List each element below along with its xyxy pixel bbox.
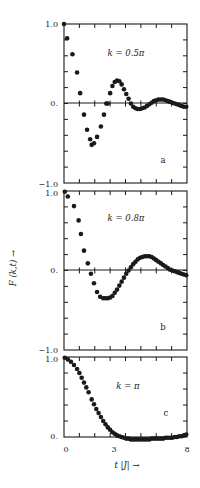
data-point: [82, 112, 87, 117]
data-point: [122, 87, 127, 92]
data-point: [79, 232, 84, 237]
data-point: [94, 407, 99, 412]
chart-canvas: 1.0 0. k = 0.5π a −1.0 1.0 0. k = 0.8π b…: [0, 0, 200, 488]
data-point: [72, 204, 77, 209]
x-tick-label-8: 8: [184, 445, 189, 454]
panel-b-letter: b: [160, 322, 166, 332]
panel-c-ticks: [64, 357, 187, 437]
data-point: [110, 84, 115, 89]
panel-a-data-points: [62, 22, 189, 147]
panel-c-data-points: [62, 356, 188, 442]
data-point: [95, 135, 100, 140]
data-point: [77, 371, 82, 376]
figure: 1.0 0. k = 0.5π a −1.0 1.0 0. k = 0.8π b…: [0, 0, 200, 488]
data-point: [78, 91, 83, 96]
data-point: [108, 91, 113, 96]
data-point: [184, 104, 189, 109]
data-point: [115, 287, 120, 292]
data-point: [65, 36, 70, 41]
data-point: [89, 397, 94, 402]
panel-a-letter: a: [160, 155, 165, 165]
data-point: [126, 96, 131, 101]
data-point: [75, 367, 80, 372]
panel-a-ytick-zero: 0.: [50, 99, 58, 108]
panel-b-k-label: k = 0.8π: [108, 213, 145, 223]
data-point: [92, 141, 97, 146]
panel-c-frame: [64, 357, 187, 437]
panel-a-k-label: k = 0.5π: [108, 48, 145, 58]
data-point: [96, 411, 101, 416]
data-point: [117, 283, 122, 288]
data-point: [62, 189, 67, 194]
panel-b-ytick-zero: 0.: [50, 266, 58, 275]
data-point: [122, 275, 127, 280]
data-point: [66, 194, 71, 199]
data-point: [124, 92, 129, 97]
panel-b: −1.0 1.0 0. k = 0.8π b: [39, 180, 189, 350]
data-point: [82, 380, 87, 385]
x-tick-label-3: 3: [111, 445, 116, 454]
panel-a: 1.0 0. k = 0.5π a: [45, 20, 188, 183]
panel-b-data-points: [62, 189, 188, 300]
data-point: [76, 218, 81, 223]
data-point: [99, 124, 104, 129]
data-point: [99, 415, 104, 420]
data-point: [92, 402, 97, 407]
panel-b-ytick-top: 1.0: [45, 189, 58, 198]
data-point: [72, 363, 77, 368]
panel-a-ytick-bottom: −1.0: [39, 180, 58, 189]
data-point: [88, 137, 93, 142]
data-point: [184, 432, 189, 437]
data-point: [85, 127, 90, 132]
data-point: [184, 273, 189, 278]
data-point: [62, 22, 67, 27]
data-point: [75, 70, 80, 75]
panel-c-k-label: k = π: [116, 381, 140, 391]
y-axis-label: F (k,t) →: [8, 250, 18, 287]
x-tick-label-0: 0: [63, 445, 68, 454]
data-point: [82, 248, 87, 253]
data-point: [119, 279, 124, 284]
data-point: [84, 385, 89, 390]
data-point: [102, 112, 107, 117]
data-point: [89, 271, 94, 276]
panel-b-ytick-bottom: −1.0: [39, 346, 58, 355]
panel-a-ytick-top: 1.0: [45, 20, 58, 29]
data-point: [106, 101, 111, 106]
panel-c-letter: c: [164, 408, 169, 418]
panel-c-ytick-top: 1.0: [45, 355, 58, 364]
data-point: [70, 52, 75, 57]
data-point: [92, 281, 97, 286]
panel-c: −1.0 1.0 0. k = π c: [39, 346, 189, 442]
data-point: [86, 261, 91, 266]
panel-c-ytick-zero: 0.: [50, 432, 58, 441]
data-point: [79, 376, 84, 381]
data-point: [86, 390, 91, 395]
data-point: [119, 82, 124, 87]
data-point: [95, 290, 100, 295]
x-axis-label: t |J| →: [114, 460, 139, 471]
